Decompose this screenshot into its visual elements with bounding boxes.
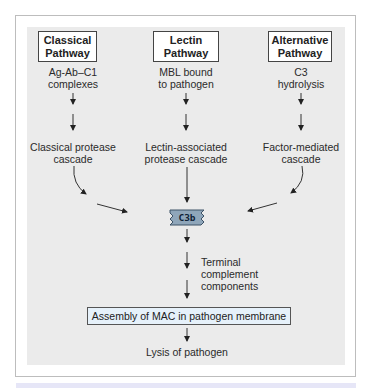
classical-pathway-box: Classical Pathway [38,31,97,62]
classical-title-2: Pathway [39,47,96,60]
alternative-trigger: C3 hydrolysis [256,66,346,90]
classical-trigger-1: Ag-Ab–C1 [28,66,118,78]
mac-assembly-box: Assembly of MAC in pathogen membrane [87,307,291,325]
lectin-title-2: Pathway [154,47,218,60]
lysis-label: Lysis of pathogen [127,346,247,358]
terminal-line-1: Terminal [201,256,281,268]
classical-cascade-2: cascade [20,153,126,165]
alternative-trigger-1: C3 [256,66,346,78]
alternative-cascade: Factor-mediated cascade [252,141,350,165]
classical-cascade: Classical protease cascade [20,141,126,165]
terminal-components-label: Terminal complement components [201,256,281,292]
classical-trigger: Ag-Ab–C1 complexes [28,66,118,90]
terminal-line-3: components [201,280,281,292]
lectin-cascade-2: protease cascade [136,153,236,165]
classical-title-1: Classical [39,34,96,47]
alternative-cascade-2: cascade [252,153,350,165]
caption-strip [16,383,356,388]
lectin-pathway-box: Lectin Pathway [153,31,219,62]
alternative-trigger-2: hydrolysis [256,78,346,90]
lectin-trigger: MBL bound to pathogen [141,66,231,90]
lectin-cascade: Lectin-associated protease cascade [136,141,236,165]
terminal-line-2: complement [201,268,281,280]
classical-trigger-2: complexes [28,78,118,90]
alternative-title-2: Pathway [269,47,331,60]
lectin-trigger-1: MBL bound [141,66,231,78]
alternative-cascade-1: Factor-mediated [252,141,350,153]
lectin-cascade-1: Lectin-associated [136,141,236,153]
c3b-label: C3b [169,209,205,226]
alternative-title-1: Alternative [269,34,331,47]
classical-cascade-1: Classical protease [20,141,126,153]
lectin-title-1: Lectin [154,34,218,47]
alternative-pathway-box: Alternative Pathway [268,31,332,62]
lectin-trigger-2: to pathogen [141,78,231,90]
